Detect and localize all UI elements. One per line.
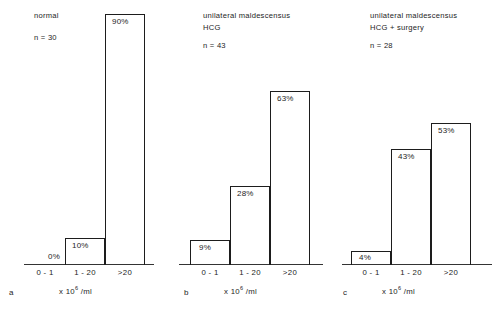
panel-c-axis-caption-base: x 10 xyxy=(382,287,398,296)
panel-c-tick-1: 0 - 1 xyxy=(351,268,391,277)
panel-c-bar-3 xyxy=(431,123,471,265)
panel-c-bar-label-2: 43% xyxy=(398,152,415,161)
panel-c-axis-caption-suffix: /ml xyxy=(401,287,415,296)
panel-a-axis-caption-suffix: /ml xyxy=(78,287,92,296)
panel-a-bar-label-1: 0% xyxy=(48,252,60,261)
panel-b-bar-3 xyxy=(270,91,310,265)
panel-b-bar-label-3: 63% xyxy=(277,94,294,103)
panel-b-bar-label-1: 9% xyxy=(199,243,211,252)
panel-b-tick-2: 1 - 20 xyxy=(230,268,270,277)
panel-b-axis-caption-base: x 10 xyxy=(224,287,240,296)
panel-c-letter: c xyxy=(343,288,347,297)
panel-b-axis-caption: x 106 /ml xyxy=(224,287,257,296)
panel-a-bar-label-2: 10% xyxy=(72,241,89,250)
panel-c-bar-label-1: 4% xyxy=(359,253,371,262)
panel-c-axis-caption: x 106 /ml xyxy=(382,287,415,296)
panel-c: unilateral maldescensus HCG + surgery n … xyxy=(334,0,501,313)
panel-a-tick-1: 0 - 1 xyxy=(25,268,65,277)
panel-a: normal n = 30 0% 10% 90% 0 - 1 1 - 20 >2… xyxy=(0,0,167,313)
panel-a-tick-3: >20 xyxy=(105,268,145,277)
panel-b-tick-1: 0 - 1 xyxy=(190,268,230,277)
panel-a-bar-3 xyxy=(105,14,145,265)
panel-a-letter: a xyxy=(9,288,13,297)
panel-a-tick-2: 1 - 20 xyxy=(65,268,105,277)
panel-b-plot: 9% 28% 63% 0 - 1 1 - 20 >20 b x 106 /ml xyxy=(167,0,334,313)
panel-a-bar-label-3: 90% xyxy=(112,17,129,26)
panel-c-bar-1 xyxy=(351,251,391,265)
panel-c-bar-label-3: 53% xyxy=(438,126,455,135)
panel-c-tick-2: 1 - 20 xyxy=(391,268,431,277)
panel-b: unilateral maldescensus HCG n = 43 9% 28… xyxy=(167,0,334,313)
panel-b-bar-label-2: 28% xyxy=(237,189,254,198)
panel-b-tick-3: >20 xyxy=(270,268,310,277)
panel-a-axis-caption-base: x 10 xyxy=(59,287,75,296)
figure-root: normal n = 30 0% 10% 90% 0 - 1 1 - 20 >2… xyxy=(0,0,501,313)
panel-c-tick-3: >20 xyxy=(431,268,471,277)
panel-b-axis-caption-suffix: /ml xyxy=(243,287,257,296)
panel-c-bar-2 xyxy=(391,149,431,265)
panel-a-axis-caption: x 106 /ml xyxy=(59,287,92,296)
panel-a-plot: 0% 10% 90% 0 - 1 1 - 20 >20 a x 106 /ml xyxy=(0,0,167,313)
panel-c-plot: 4% 43% 53% 0 - 1 1 - 20 >20 c x 106 /ml xyxy=(334,0,501,313)
panel-b-letter: b xyxy=(184,288,188,297)
